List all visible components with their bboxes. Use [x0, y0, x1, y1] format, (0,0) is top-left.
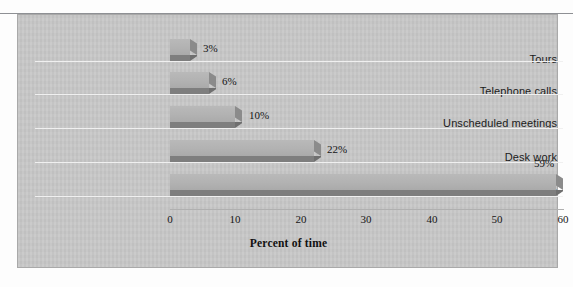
bar-face: [170, 106, 235, 122]
x-tick-0: 0: [167, 213, 173, 225]
gridline-5: [35, 196, 563, 197]
value-label-unscheduled-meetings: 10%: [249, 109, 269, 121]
plot-area: 3% 6% 10%: [170, 31, 563, 209]
bar-face: [170, 72, 209, 88]
bar-side-cap: [314, 140, 321, 156]
bar-shadow: [170, 156, 314, 162]
value-label-desk-work: 22%: [327, 143, 347, 155]
gridline-3: [35, 128, 563, 129]
x-tick-20: 20: [296, 213, 307, 225]
value-label-telephone-calls: 6%: [222, 75, 237, 87]
bar-side-cap: [556, 174, 563, 190]
chart-panel: Tours Telephone calls Unscheduled meetin…: [17, 14, 558, 268]
x-axis-title: Percent of time: [18, 237, 559, 249]
bar-shadow: [170, 55, 190, 61]
x-tick-30: 30: [361, 213, 372, 225]
gridline-4: [35, 162, 563, 163]
x-tick-10: 10: [230, 213, 241, 225]
bar-shadow: [170, 88, 209, 94]
value-label-scheduled-meetings: 59%: [534, 157, 554, 169]
bar-side-cap: [209, 72, 216, 88]
bar-shadow: [170, 122, 235, 128]
bar-side-cap: [235, 106, 242, 122]
x-tick-40: 40: [427, 213, 438, 225]
x-tick-60: 60: [558, 213, 569, 225]
x-axis-line: [170, 209, 564, 210]
bar-face: [170, 140, 314, 156]
bar-shadow: [170, 190, 556, 196]
bar-face: [170, 39, 190, 55]
bar-face: [170, 174, 556, 190]
value-label-tours: 3%: [203, 42, 218, 54]
bar-side-cap: [190, 39, 197, 55]
x-tick-50: 50: [492, 213, 503, 225]
gridline-2: [35, 94, 563, 95]
page-background: Tours Telephone calls Unscheduled meetin…: [0, 0, 573, 287]
gridline-1: [35, 61, 563, 62]
